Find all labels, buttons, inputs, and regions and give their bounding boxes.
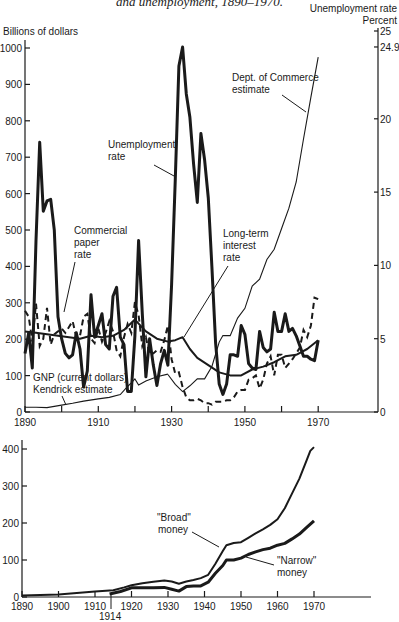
x-tick-label: 1970 [307,417,330,428]
y-axis-right-title: Unemployment rate [310,3,398,14]
bottom-x-tick-label: 1930 [157,601,180,612]
label-broad-money-2: money [158,524,188,535]
bottom-x-tick-label: 1970 [303,601,326,612]
bottom-x-tick-label: 1920 [120,601,143,612]
x-tick-label: 1950 [234,417,257,428]
y-tick-label: 200 [5,334,22,345]
y2-tick-label: 24.9 [380,42,399,53]
label-dept-commerce-2: estimate [232,84,270,95]
top-series [25,47,318,408]
y-tick-label: 400 [5,261,22,272]
label-gnp-2: Kendrick estimate [33,384,113,395]
label-1914: 1914 [99,611,122,622]
series-unemployment-rate [25,47,318,394]
label-long-term-3: rate [223,252,241,263]
y2-tick-label: 5 [380,334,386,345]
label-narrow-money: "Narrow" [277,555,317,566]
leader-broad-money [192,532,219,547]
bottom-y-tick-label: 300 [2,481,19,492]
leader-long-term [184,266,228,337]
label-narrow-money-2: money [277,567,307,578]
bottom-x-tick-label: 1950 [230,601,253,612]
x-tick-label: 1910 [87,417,110,428]
y2-tick-label: 15 [380,187,392,198]
bottom-x-tick-label: 1890 [11,601,34,612]
bottom-x-tick-label: 1960 [266,601,289,612]
y-axis-left-title: Billions of dollars [3,26,78,37]
y-tick-label: 800 [5,116,22,127]
y2-tick-label: 25 [380,26,392,37]
top-axes: 0100200300400500600700800900100005101520… [0,26,399,428]
label-unemployment-2: rate [108,151,126,162]
y2-tick-label: 20 [380,114,392,125]
bottom-y-tick-label: 400 [2,444,19,455]
y-tick-label: 500 [5,225,22,236]
label-commercial-paper: Commercial [74,225,127,236]
bottom-chart: 0100200300400189019001910192019301940195… [2,440,371,622]
leader-narrow-money [246,557,274,565]
leader-commercial-paper [64,262,75,312]
x-tick-label: 1930 [160,417,183,428]
chart-figure: Billions of dollars Unemployment rate Pe… [0,0,399,622]
top-chart: Billions of dollars Unemployment rate Pe… [0,3,399,428]
leader-dept-commerce [282,95,306,112]
series-gnp-current-dollars-dept-of-commerce-estimate [168,57,318,392]
x-tick-label: 1890 [14,417,37,428]
label-broad-money: "Broad" [157,512,191,523]
bottom-x-tick-label: 1940 [193,601,216,612]
y-tick-label: 900 [5,79,22,90]
leader-gnp [62,396,66,405]
label-dept-commerce: Dept. of Commerce [232,72,319,83]
bottom-x-tick-label: 1900 [47,601,70,612]
y-axis-right-unit: Percent [363,15,398,26]
y2-tick-label: 10 [380,260,392,271]
y-tick-label: 700 [5,152,22,163]
label-long-term-2: interest [223,240,256,251]
label-commercial-paper-3: rate [74,249,92,260]
leader-unemployment [154,165,174,176]
label-unemployment: Unemployment [108,139,175,150]
y2-tick-label: 0 [380,407,386,418]
label-commercial-paper-2: paper [74,237,100,248]
y-tick-label: 300 [5,298,22,309]
y-tick-label: 600 [5,189,22,200]
y-tick-label: 100 [5,371,22,382]
bottom-y-tick-label: 100 [2,555,19,566]
label-gnp: GNP (current dollars) [33,372,127,383]
y-tick-label: 1000 [0,43,22,54]
label-long-term: Long-term [223,228,269,239]
bottom-y-tick-label: 200 [2,518,19,529]
